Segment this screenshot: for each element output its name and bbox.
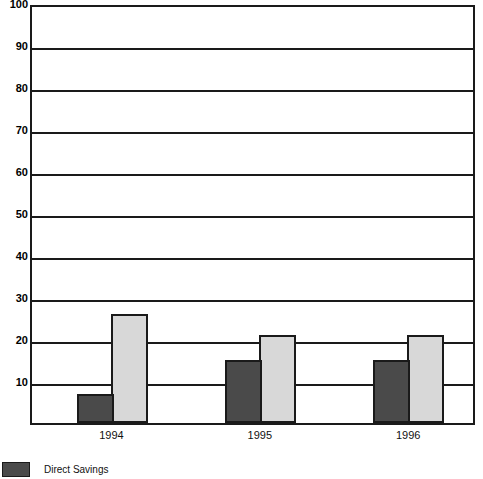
y-tick-label: 100 — [2, 0, 28, 10]
x-tick-label: 1995 — [238, 428, 282, 442]
bar — [259, 335, 296, 423]
y-tick-label: 40 — [2, 251, 28, 262]
y-tick-label: 20 — [2, 335, 28, 346]
y-tick-label: 10 — [2, 377, 28, 388]
y-tick-label: 50 — [2, 209, 28, 220]
x-tick-label: 1994 — [90, 428, 134, 442]
bar-chart-figure: 102030405060708090100 199419951996 Direc… — [0, 0, 483, 479]
y-tick-label: 90 — [2, 41, 28, 52]
legend-swatch — [2, 462, 30, 477]
legend-entry: Direct Savings — [2, 462, 108, 477]
y-tick-label: 80 — [2, 83, 28, 94]
gridline-80 — [32, 90, 473, 92]
y-tick-label: 70 — [2, 125, 28, 136]
x-tick-label: 1996 — [386, 428, 430, 442]
y-tick-label: 60 — [2, 167, 28, 178]
bar — [373, 360, 410, 423]
legend-label: Direct Savings — [44, 464, 108, 476]
gridline-30 — [32, 300, 473, 302]
gridline-90 — [32, 48, 473, 50]
gridline-40 — [32, 258, 473, 260]
bar — [111, 314, 148, 423]
x-axis-tick-labels: 199419951996 — [30, 428, 475, 448]
chart-legend: Direct Savings — [2, 460, 108, 479]
bar — [407, 335, 444, 423]
gridline-70 — [32, 132, 473, 134]
gridline-60 — [32, 174, 473, 176]
gridline-50 — [32, 216, 473, 218]
y-tick-label: 30 — [2, 293, 28, 304]
bar — [225, 360, 262, 423]
plot-area — [30, 5, 475, 425]
bar — [77, 394, 114, 423]
y-axis-tick-labels: 102030405060708090100 — [0, 0, 28, 430]
